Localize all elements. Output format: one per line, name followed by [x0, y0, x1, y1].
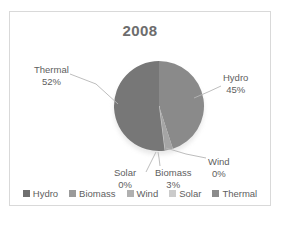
legend-item-label: Hydro [33, 188, 58, 199]
pie-label-thermal: Thermal 52% [34, 64, 69, 87]
pie-label-hydro: Hydro 45% [223, 72, 248, 95]
chart-legend: HydroBiomassWindSolarThermal [10, 188, 270, 199]
legend-item-label: Thermal [222, 188, 257, 199]
pie-label-thermal-name: Thermal [34, 64, 69, 76]
legend-swatch-icon [23, 190, 30, 197]
pie-label-solar-name: Solar [114, 167, 136, 179]
legend-item-biomass[interactable]: Biomass [69, 188, 115, 199]
pie-label-biomass-name: Biomass [155, 167, 191, 179]
chart-title: 2008 [10, 22, 270, 39]
pie-label-biomass: Biomass 3% [155, 167, 191, 190]
legend-item-hydro[interactable]: Hydro [23, 188, 58, 199]
pie-slice-thermal[interactable] [114, 61, 165, 151]
pie-label-wind-value: 0% [208, 168, 230, 180]
legend-swatch-icon [127, 190, 134, 197]
legend-swatch-icon [212, 190, 219, 197]
legend-item-label: Wind [137, 188, 159, 199]
pie-slices [113, 60, 205, 160]
pie-label-thermal-value: 52% [34, 76, 69, 88]
pie-label-solar: Solar 0% [114, 167, 136, 190]
legend-item-solar[interactable]: Solar [169, 188, 201, 199]
chart-frame: 2008 Thermal 52% Hydro 45% Solar 0% Biom… [9, 11, 271, 206]
legend-swatch-icon [69, 190, 76, 197]
legend-item-label: Solar [179, 188, 201, 199]
pie-label-wind: Wind 0% [208, 156, 230, 179]
pie-label-hydro-name: Hydro [223, 72, 248, 84]
legend-item-thermal[interactable]: Thermal [212, 188, 257, 199]
legend-item-label: Biomass [79, 188, 115, 199]
legend-swatch-icon [169, 190, 176, 197]
legend-item-wind[interactable]: Wind [127, 188, 159, 199]
pie-chart [113, 60, 205, 160]
pie-label-wind-name: Wind [208, 156, 230, 168]
pie-label-hydro-value: 45% [223, 84, 248, 96]
